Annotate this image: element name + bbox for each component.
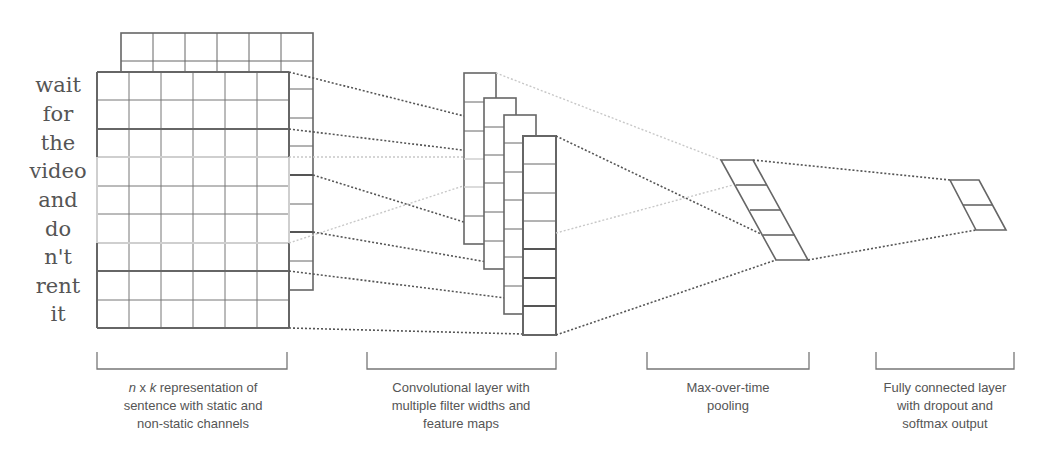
fc-output-vector — [950, 180, 1006, 230]
caption-input-x: x — [136, 380, 150, 395]
caption-conv-line3: feature maps — [423, 416, 499, 431]
word-label: wait — [35, 73, 81, 97]
caption-pool-line1: Max-over-time — [686, 380, 769, 395]
caption-input-n: n — [129, 380, 136, 395]
bracket-input — [97, 352, 287, 369]
caption-input: n x k representation of sentence with st… — [124, 380, 263, 431]
caption-conv-line1: Convolutional layer with — [392, 380, 529, 395]
caption-conv-line2: multiple filter widths and — [392, 398, 531, 413]
caption-input-line3: non-static channels — [137, 416, 250, 431]
input-matrix-front-channel — [97, 72, 289, 328]
bracket-conv — [367, 352, 556, 369]
bracket-fc — [876, 352, 1014, 369]
caption-fc: Fully connected layer with dropout and s… — [884, 380, 1008, 431]
word-label: the — [41, 131, 75, 155]
conv-feature-maps — [464, 73, 556, 335]
word-label: and — [38, 188, 78, 212]
bracket-pool — [647, 352, 809, 369]
feature-map-4 — [523, 136, 556, 335]
word-label: it — [50, 302, 66, 326]
word-label: do — [45, 217, 71, 241]
caption-fc-line2: with dropout and — [896, 398, 993, 413]
word-label: video — [28, 159, 86, 183]
caption-pool: Max-over-time pooling — [686, 380, 769, 413]
word-label: n't — [44, 245, 72, 269]
word-label: for — [43, 102, 74, 126]
caption-input-line2: sentence with static and — [124, 398, 263, 413]
caption-pool-line2: pooling — [707, 398, 749, 413]
caption-brackets — [97, 352, 1014, 369]
caption-fc-line1: Fully connected layer — [884, 380, 1008, 395]
sentence-words: wait for the video and do n't rent it — [28, 73, 86, 326]
caption-input-rest: representation of — [156, 380, 258, 395]
word-label: rent — [36, 274, 81, 298]
max-pool-vector — [721, 160, 808, 260]
caption-conv: Convolutional layer with multiple filter… — [392, 380, 531, 431]
caption-fc-line3: softmax output — [902, 416, 988, 431]
cnn-architecture-diagram: wait for the video and do n't rent it — [0, 0, 1049, 460]
svg-text:n x k representation of: n x k representation of — [129, 380, 258, 395]
